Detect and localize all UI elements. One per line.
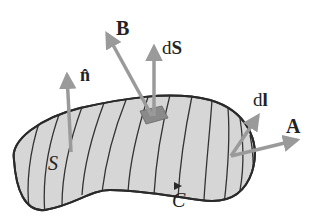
diagram-graphics bbox=[0, 0, 321, 221]
label-n-hat: n̂ bbox=[80, 66, 90, 84]
label-ds-d: d bbox=[162, 37, 172, 58]
label-dl-l: l bbox=[263, 89, 268, 110]
label-ds: dS bbox=[162, 38, 182, 57]
label-b: B bbox=[116, 18, 129, 38]
label-c: C bbox=[172, 190, 185, 210]
label-s: S bbox=[48, 153, 58, 173]
stokes-theorem-diagram: B dS n̂ dl A S C bbox=[0, 0, 321, 221]
label-dl-d: d bbox=[253, 89, 263, 110]
label-ds-s: S bbox=[172, 37, 183, 58]
label-a: A bbox=[286, 116, 300, 136]
label-dl: dl bbox=[253, 90, 268, 109]
